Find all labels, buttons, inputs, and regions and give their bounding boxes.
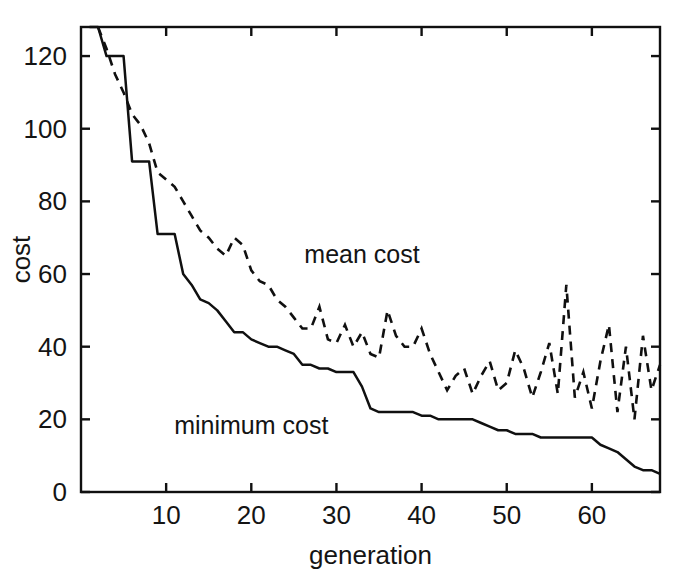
mean-cost-curve bbox=[98, 27, 660, 419]
x-tick-label: 30 bbox=[322, 500, 351, 530]
y-tick-label: 60 bbox=[38, 259, 67, 289]
y-tick-label: 100 bbox=[24, 114, 67, 144]
x-tick-label: 20 bbox=[237, 500, 266, 530]
y-tick-label: 0 bbox=[53, 477, 67, 507]
x-tick-label: 60 bbox=[577, 500, 606, 530]
y-tick-label: 80 bbox=[38, 186, 67, 216]
x-tick-label: 10 bbox=[152, 500, 181, 530]
y-axis-ticks bbox=[81, 56, 90, 492]
cost-vs-generation-chart: 102030405060 020406080100120 mean cost m… bbox=[0, 0, 682, 580]
minimum-cost-label: minimum cost bbox=[174, 411, 328, 439]
mean-cost-label: mean cost bbox=[304, 240, 419, 268]
top-axis-ticks bbox=[166, 27, 592, 36]
x-axis-ticks bbox=[166, 483, 592, 492]
right-axis-ticks bbox=[651, 56, 660, 492]
y-tick-label: 20 bbox=[38, 404, 67, 434]
x-axis-tick-labels: 102030405060 bbox=[152, 500, 607, 530]
x-tick-label: 50 bbox=[492, 500, 521, 530]
y-tick-label: 40 bbox=[38, 332, 67, 362]
x-tick-label: 40 bbox=[407, 500, 436, 530]
y-axis-title: cost bbox=[6, 235, 36, 283]
x-axis-title: generation bbox=[309, 540, 432, 570]
y-tick-label: 120 bbox=[24, 41, 67, 71]
chart-figure: 102030405060 020406080100120 mean cost m… bbox=[0, 0, 682, 580]
